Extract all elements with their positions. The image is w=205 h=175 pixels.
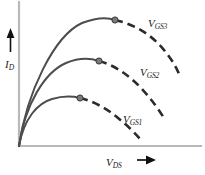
curve-label-vgs2: VGS2: [140, 63, 159, 79]
curve-vgs3-peak-marker: [112, 17, 118, 23]
y-axis-arrow-icon: [7, 28, 15, 52]
curve-vgs2-solid: [19, 59, 99, 146]
y-axis-label: ID: [5, 55, 14, 71]
curve-label-vgs1-symbol: V: [123, 113, 130, 125]
curve-vgs1-peak-marker: [77, 95, 83, 101]
mosfet-drain-characteristics-figure: ID VDS VGS3 VGS2 VGS1: [0, 0, 205, 175]
curve-label-vgs1: VGS1: [123, 110, 142, 126]
curve-label-vgs3: VGS3: [148, 14, 167, 30]
curve-vgs3-solid: [19, 18, 115, 146]
curve-label-vgs3-symbol: V: [148, 17, 155, 29]
curve-label-vgs2-subscript: GS2: [147, 71, 159, 80]
x-axis-subscript: DS: [113, 161, 122, 170]
plot-canvas: [0, 0, 205, 175]
curve-label-vgs1-subscript: GS1: [130, 118, 142, 127]
axis-group: [19, 2, 201, 146]
curve-vgs2-peak-marker: [96, 58, 102, 64]
curve-label-vgs2-symbol: V: [140, 66, 147, 78]
x-axis-symbol: V: [106, 156, 113, 168]
y-axis-subscript: D: [9, 63, 14, 72]
x-axis-arrow-icon: [137, 156, 156, 165]
curve-vgs1-group: [19, 95, 140, 146]
x-axis-label: VDS: [106, 153, 122, 169]
curve-label-vgs3-subscript: GS3: [155, 22, 167, 31]
